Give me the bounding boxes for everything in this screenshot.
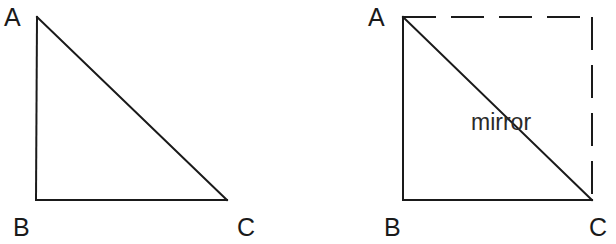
- vertex-label-a: A: [368, 3, 385, 31]
- vertex-label-c: C: [589, 213, 607, 241]
- edge-ab: [36, 17, 37, 200]
- edge-ac: [37, 17, 227, 200]
- vertex-label-b: B: [384, 213, 401, 241]
- vertex-label-b: B: [13, 213, 30, 241]
- left-triangle: A B C: [4, 3, 255, 241]
- vertex-label-a: A: [4, 3, 21, 31]
- right-mirrored-figure: mirror A B C: [368, 3, 607, 241]
- diagram-canvas: A B C mirror A B C: [0, 0, 616, 244]
- mirror-label: mirror: [471, 109, 531, 135]
- vertex-label-c: C: [237, 213, 255, 241]
